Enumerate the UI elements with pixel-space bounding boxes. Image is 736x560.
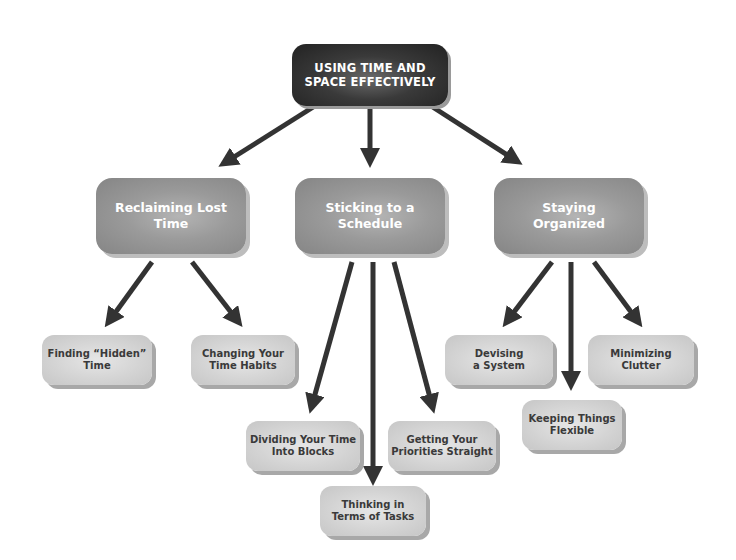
branch-label-line1: Sticking to a: [326, 200, 415, 216]
arrow-root-to-reclaiming: [226, 104, 318, 162]
leaf-label-line1: Finding “Hidden”: [48, 348, 147, 361]
arrow-sticking-to-dividing: [312, 262, 352, 405]
arrow-staying-to-minimizing: [594, 262, 637, 320]
concept-map: USING TIME AND SPACE EFFECTIVELY Reclaim…: [0, 0, 736, 560]
leaf-label-line2: Flexible: [528, 425, 615, 438]
leaf-node-changing-your-time-habits: Changing Your Time Habits: [191, 335, 295, 385]
arrow-reclaiming-to-changing: [192, 262, 237, 320]
leaf-label-line1: Getting Your: [391, 434, 493, 447]
leaf-label-line1: Devising: [473, 348, 525, 361]
leaf-node-devising-a-system: Devising a System: [445, 335, 553, 385]
leaf-node-thinking-in-terms-of-tasks: Thinking in Terms of Tasks: [320, 486, 426, 536]
leaf-label-line1: Thinking in: [332, 499, 415, 512]
leaf-label-line2: Time Habits: [202, 360, 284, 373]
arrow-staying-to-devising: [508, 262, 552, 320]
leaf-node-minimizing-clutter: Minimizing Clutter: [588, 335, 694, 385]
leaf-label-line2: Terms of Tasks: [332, 511, 415, 524]
leaf-label-line2: Into Blocks: [250, 446, 356, 459]
root-node: USING TIME AND SPACE EFFECTIVELY: [292, 44, 448, 106]
arrow-reclaiming-to-finding: [110, 262, 152, 320]
leaf-label-line2: Priorities Straight: [391, 446, 493, 459]
leaf-label-line1: Dividing Your Time: [250, 434, 356, 447]
branch-label-line2: Time: [115, 216, 227, 232]
leaf-node-dividing-your-time-into-blocks: Dividing Your Time Into Blocks: [246, 421, 360, 471]
leaf-label-line2: a System: [473, 360, 525, 373]
leaf-label-line2: Clutter: [610, 360, 671, 373]
leaf-label-line1: Minimizing: [610, 348, 671, 361]
arrow-root-to-staying: [428, 104, 515, 160]
branch-node-staying-organized: Staying Organized: [494, 178, 644, 254]
leaf-label-line1: Keeping Things: [528, 413, 615, 426]
leaf-node-finding-hidden-time: Finding “Hidden” Time: [42, 335, 152, 385]
branch-node-sticking-to-a-schedule: Sticking to a Schedule: [295, 178, 445, 254]
branch-label-line1: Reclaiming Lost: [115, 200, 227, 216]
root-label-line1: USING TIME AND: [305, 61, 436, 75]
branch-label-line2: Schedule: [326, 216, 415, 232]
root-label-line2: SPACE EFFECTIVELY: [305, 75, 436, 89]
branch-label-line2: Organized: [533, 216, 605, 232]
arrow-sticking-to-getting: [394, 262, 432, 405]
leaf-label-line1: Changing Your: [202, 348, 284, 361]
branch-label-line1: Staying: [533, 200, 605, 216]
leaf-label-line2: Time: [48, 360, 147, 373]
leaf-node-keeping-things-flexible: Keeping Things Flexible: [522, 400, 622, 450]
branch-node-reclaiming-lost-time: Reclaiming Lost Time: [96, 178, 246, 254]
leaf-node-getting-your-priorities-straight: Getting Your Priorities Straight: [388, 421, 496, 471]
